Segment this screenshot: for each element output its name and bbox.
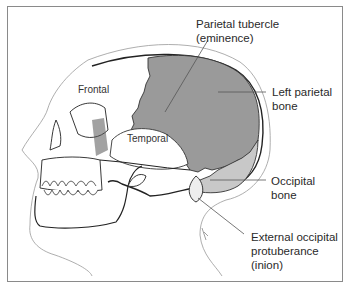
- upper-teeth: [42, 181, 96, 186]
- lower-teeth: [44, 190, 98, 195]
- label-occipital-2: bone: [271, 189, 297, 202]
- label-left-parietal-1: Left parietal: [272, 86, 332, 99]
- label-inion-1: External occipital: [251, 231, 338, 244]
- leader-inion: [198, 198, 244, 234]
- label-inion-3: (inion): [251, 259, 283, 272]
- maxilla: [40, 157, 102, 191]
- label-inion-2: protuberance: [251, 245, 319, 258]
- label-parietal-tubercle-1: Parietal tubercle: [196, 18, 279, 31]
- mandible: [35, 166, 142, 228]
- artist-signature: [202, 228, 208, 240]
- label-left-parietal-2: bone: [272, 100, 298, 113]
- label-parietal-tubercle-2: (eminence): [196, 32, 254, 45]
- label-temporal: Temporal: [127, 132, 168, 145]
- label-occipital-1: Occipital: [271, 175, 315, 188]
- mandible-condyle: [128, 174, 146, 186]
- label-frontal: Frontal: [78, 83, 109, 96]
- nasal-bone: [50, 120, 61, 150]
